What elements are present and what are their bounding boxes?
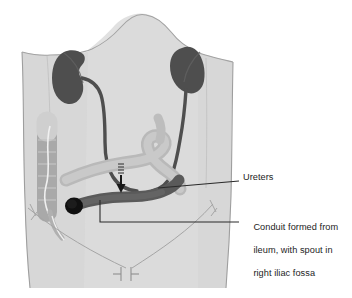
label-ureters: Ureters bbox=[243, 172, 273, 183]
label-conduit-line3: right iliac fossa bbox=[253, 268, 315, 278]
label-conduit: Conduit formed from ileum, with spout in… bbox=[243, 211, 338, 291]
label-conduit-line2: ileum, with spout in bbox=[253, 245, 332, 255]
label-conduit-line1: Conduit formed from bbox=[253, 222, 338, 232]
stoma-spout bbox=[65, 198, 83, 215]
ileal-conduit-diagram: Ureters Conduit formed from ileum, with … bbox=[0, 0, 352, 298]
